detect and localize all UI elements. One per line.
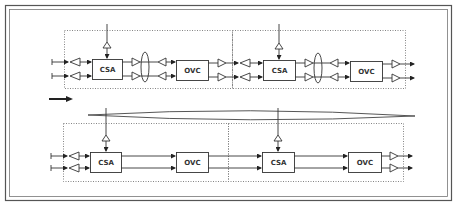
ellipse-bundle-icon — [314, 53, 322, 83]
triangle-buffer-icon — [330, 59, 338, 67]
triangle-buffer-icon — [132, 58, 140, 66]
triangle-buffer-icon — [218, 73, 226, 81]
triangle-buffer-icon — [70, 58, 80, 66]
diagram-canvas: CSA OVC CSA OVC — [0, 0, 456, 206]
triangle-buffer-icon — [240, 59, 250, 67]
top-csa-1-label: CSA — [100, 66, 116, 74]
bottom-ovc-2-label: OVC — [357, 159, 373, 167]
triangle-buffer-icon — [305, 59, 313, 67]
triangle-buffer-icon — [69, 152, 79, 160]
triangle-buffer-icon — [390, 152, 398, 160]
triangle-buffer-icon — [132, 72, 140, 80]
triangle-buffer-icon — [392, 74, 400, 82]
triangle-buffer-icon — [305, 73, 313, 81]
triangle-buffer-icon — [392, 60, 400, 68]
top-ovc-2-label: OVC — [358, 68, 374, 76]
bottom-row — [51, 108, 412, 182]
top-row — [52, 24, 414, 89]
top-stage2-boundary — [233, 31, 406, 89]
triangle-buffer-icon — [158, 72, 166, 80]
bottom-csa-2-label: CSA — [271, 159, 287, 167]
triangle-buffer-icon — [218, 59, 226, 67]
top-csa-2-label: CSA — [272, 67, 288, 75]
ellipse-bundle-icon — [141, 52, 149, 82]
triangle-buffer-icon — [69, 164, 79, 172]
triangle-buffer-icon — [390, 164, 398, 172]
triangle-buffer-icon — [70, 72, 80, 80]
top-ovc-1-label: OVC — [184, 67, 200, 75]
spindle-bundle-icon — [88, 111, 415, 120]
triangle-buffer-icon — [330, 73, 338, 81]
bottom-csa-1-label: CSA — [98, 159, 114, 167]
arrow-right-icon — [49, 96, 73, 102]
triangle-buffer-icon — [240, 73, 250, 81]
bottom-labels: CSA OVC CSA OVC — [98, 159, 373, 167]
triangle-buffer-icon — [158, 58, 166, 66]
bottom-ovc-1-label: OVC — [184, 159, 200, 167]
